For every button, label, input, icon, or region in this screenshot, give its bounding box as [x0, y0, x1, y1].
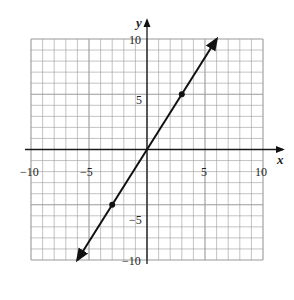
- data-point: [179, 91, 185, 97]
- axes: [25, 20, 283, 264]
- coordinate-plane: −10 −5 5 10 10 5 −5 −10 x y: [0, 0, 294, 300]
- y-tick-label: −10: [122, 254, 141, 268]
- x-tick-label: 10: [255, 165, 267, 179]
- y-tick-label: 10: [129, 33, 141, 47]
- y-axis-label: y: [134, 15, 142, 30]
- data-point: [109, 202, 115, 208]
- y-tick-label: −5: [129, 213, 142, 227]
- x-tick-label: −5: [80, 165, 93, 179]
- x-tick-label: −10: [20, 165, 39, 179]
- y-tick-label: 5: [136, 93, 142, 107]
- x-axis-label: x: [276, 152, 284, 167]
- x-tick-label: 5: [201, 165, 207, 179]
